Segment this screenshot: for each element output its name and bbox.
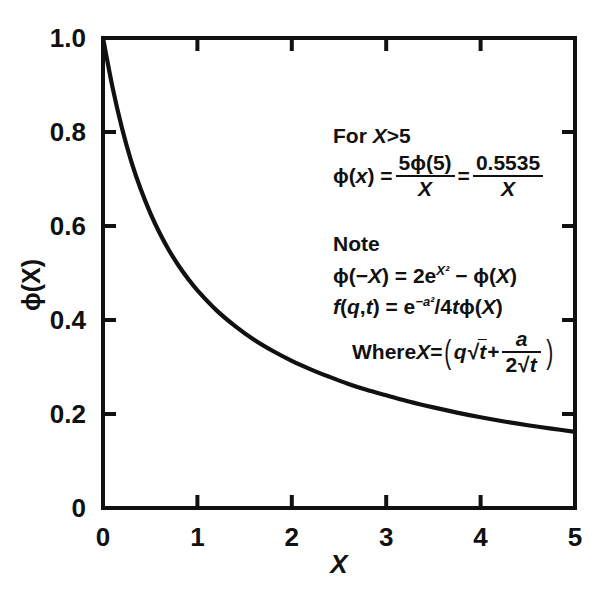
equation-lhs-variable: x <box>356 165 368 187</box>
y-tick-label-0.6: 0.6 <box>50 211 86 241</box>
note3-variable-q: q <box>454 341 467 363</box>
note1-mid: ) = 2e <box>382 264 436 287</box>
note1-variable-2: X <box>496 264 510 287</box>
x-axis-title: X <box>328 549 349 579</box>
note1-close: ) <box>510 264 517 287</box>
note1-phi-open: ϕ(− <box>333 264 368 287</box>
note3-close-paren: ) <box>546 338 553 365</box>
y-tick-label-0: 0 <box>72 493 86 523</box>
y-axis-tick-labels: 00.20.40.60.81.0 <box>50 23 87 523</box>
annotation-note-line-3-where: Where X = ( q√t+ a 2√t ) <box>352 328 555 376</box>
note1-exponent: X² <box>436 263 449 278</box>
x-tick-label-1: 1 <box>190 522 204 552</box>
denominator-coefficient: 2 <box>505 353 517 376</box>
note3-where-label: Where <box>352 341 416 363</box>
fraction-numerator: 5ϕ(5) <box>396 152 455 177</box>
note2-variable-t2: t <box>452 295 459 318</box>
equation-lhs-close: ) = <box>367 165 392 187</box>
annotation-for-x-greater-than-5: For X>5 <box>333 125 411 147</box>
y-tick-label-0.4: 0.4 <box>50 305 87 335</box>
fraction-denominator: 2√t <box>502 353 540 376</box>
note2-open-paren: ( <box>340 295 347 318</box>
y-tick-label-0.2: 0.2 <box>50 399 86 429</box>
fraction-05535-over-x: 0.5535 X <box>473 152 543 200</box>
annotation-heading-suffix: >5 <box>387 124 411 147</box>
x-axis-tick-labels: 012345 <box>96 522 582 552</box>
radicand-t: t <box>529 352 538 376</box>
figure-container: 00.20.40.60.81.0 012345 X ϕ(X) For X>5 ϕ… <box>0 0 615 597</box>
x-tick-label-5: 5 <box>568 522 582 552</box>
note2-variable-q: q <box>347 295 360 318</box>
equation-equals-sign: = <box>458 165 470 187</box>
fraction-numerator: a <box>502 328 540 353</box>
note2-variable-t: t <box>366 295 373 318</box>
note3-variable-x: X <box>416 341 430 363</box>
note3-equals: = <box>430 341 442 363</box>
note1-variable-1: X <box>368 264 382 287</box>
x-tick-label-0: 0 <box>96 522 110 552</box>
note2-variable-x: X <box>482 295 496 318</box>
note1-minus-phi: − ϕ( <box>449 264 496 287</box>
note2-exponent: −a² <box>415 294 434 309</box>
annotation-equation-phi-asymptote: ϕ(x) = 5ϕ(5) X = 0.5535 X <box>333 152 546 200</box>
y-tick-label-0.8: 0.8 <box>50 117 86 147</box>
annotation-heading-prefix: For <box>333 124 373 147</box>
note3-plus: + <box>487 341 499 363</box>
radicand-t: t <box>478 339 487 363</box>
note3-open-paren: ( <box>445 338 452 365</box>
x-tick-label-2: 2 <box>285 522 299 552</box>
fraction-denominator: X <box>473 177 543 200</box>
annotation-note-line-2: f(q,t) = e−a²/4tϕ(X) <box>333 295 503 318</box>
equation-lhs-phi: ϕ( <box>333 165 356 187</box>
fraction-5phi5-over-x: 5ϕ(5) X <box>396 152 455 200</box>
note2-equals-e: ) = e <box>373 295 416 318</box>
radical-symbol: √ <box>518 353 530 376</box>
annotation-heading-variable: X <box>373 124 387 147</box>
annotation-heading-line: For X>5 <box>333 125 411 147</box>
denominator-sqrt-t: √t <box>517 354 538 376</box>
fraction-numerator: 0.5535 <box>473 152 543 177</box>
y-tick-label-1.0: 1.0 <box>50 23 86 53</box>
note2-close: ) <box>496 295 503 318</box>
x-tick-label-3: 3 <box>379 522 393 552</box>
annotation-note-heading: Note <box>333 233 380 255</box>
note3-sqrt-t: √t <box>467 341 488 363</box>
chart-plot-area: 00.20.40.60.81.0 012345 X ϕ(X) <box>0 0 615 597</box>
x-tick-label-4: 4 <box>473 522 488 552</box>
y-axis-title: ϕ(X) <box>17 259 45 311</box>
note3-fraction-a-over-2sqrtt: a 2√t <box>502 328 540 376</box>
note2-function-f: f <box>333 295 340 318</box>
annotation-note-line-1: ϕ(−X) = 2eX² − ϕ(X) <box>333 264 517 287</box>
note2-over-4: /4 <box>434 295 452 318</box>
note2-phi-open: ϕ( <box>459 295 482 318</box>
fraction-denominator: X <box>396 177 455 200</box>
